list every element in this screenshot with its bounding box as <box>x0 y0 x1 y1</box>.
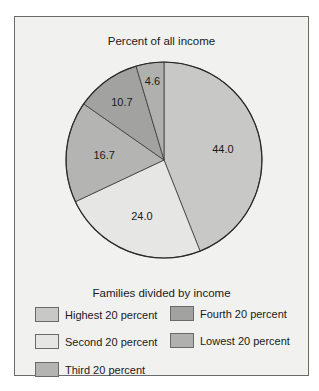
legend-title: Families divided by income <box>15 287 308 299</box>
legend-swatch <box>170 333 194 348</box>
legend-swatch <box>35 362 59 377</box>
legend-label: Third 20 percent <box>65 364 145 376</box>
chart-frame: Percent of all income 44.024.016.710.74.… <box>14 16 309 376</box>
legend-label: Second 20 percent <box>65 336 157 348</box>
legend-label: Fourth 20 percent <box>200 308 287 320</box>
legend-item-third: Third 20 percent <box>35 362 145 377</box>
pie-label-third: 16.7 <box>94 149 115 161</box>
pie-label-lowest: 4.6 <box>145 75 160 87</box>
legend-item-second: Second 20 percent <box>35 334 157 349</box>
pie-label-second: 24.0 <box>131 210 152 222</box>
legend-item-highest: Highest 20 percent <box>35 307 157 322</box>
pie-label-fourth: 10.7 <box>111 96 132 108</box>
legend-item-lowest: Lowest 20 percent <box>170 333 290 348</box>
legend-swatch <box>35 334 59 349</box>
pie-label-highest: 44.0 <box>212 143 233 155</box>
legend-label: Lowest 20 percent <box>200 335 290 347</box>
legend-swatch <box>35 307 59 322</box>
legend-label: Highest 20 percent <box>65 309 157 321</box>
chart-title: Percent of all income <box>15 35 308 47</box>
legend-item-fourth: Fourth 20 percent <box>170 306 287 321</box>
pie-chart: 44.024.016.710.74.6 <box>64 60 264 260</box>
legend-swatch <box>170 306 194 321</box>
